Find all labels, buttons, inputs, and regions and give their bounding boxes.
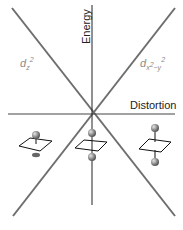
- dz2-sup: 2: [30, 56, 34, 63]
- structure-left: [19, 131, 52, 157]
- dx2y2-sup2: 2: [161, 56, 165, 63]
- distortion-axis-label: Distortion: [130, 99, 176, 111]
- energy-axis-label: Energy: [80, 9, 92, 44]
- dz2-label: dz2: [20, 56, 34, 71]
- dx2y2-label: dx2−y2: [140, 56, 165, 71]
- dz2-sub: z: [26, 64, 30, 71]
- dx2y2-sub2: −y: [154, 64, 162, 71]
- structure-right: [139, 124, 171, 166]
- structure-center: [75, 129, 107, 161]
